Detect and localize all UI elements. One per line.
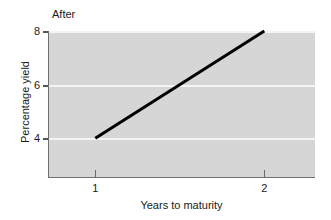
x-tick-1 [95, 170, 96, 177]
y-axis-title: Percentage yield [19, 22, 31, 182]
chart-figure: After 8 6 4 1 2 Years to maturity Percen… [0, 0, 331, 220]
x-tick-label-2: 2 [252, 182, 276, 194]
y-tick-6 [43, 85, 48, 87]
x-axis-title: Years to maturity [48, 199, 315, 211]
gridline-y4 [48, 138, 315, 140]
y-tick-8 [43, 31, 48, 33]
x-axis-line [48, 177, 315, 178]
x-tick-label-1: 1 [83, 182, 107, 194]
gridline-y8 [48, 31, 315, 33]
x-tick-2 [264, 170, 265, 177]
plot-area [48, 31, 315, 177]
y-tick-4 [43, 138, 48, 140]
panel-label: After [52, 8, 75, 20]
gridline-y6 [48, 85, 315, 87]
y-axis-line [48, 31, 49, 177]
